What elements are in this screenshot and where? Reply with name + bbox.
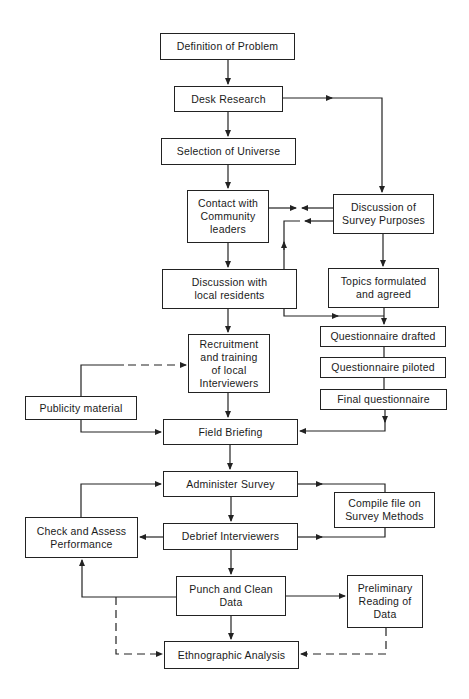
- edge-preliminary-ethnographic-dashed: [301, 628, 386, 654]
- edge-punch-check: [82, 560, 176, 597]
- node-selection-of-universe: Selection of Universe: [161, 138, 296, 165]
- node-questionnaire-piloted: Questionnaire piloted: [320, 357, 446, 378]
- node-final-questionnaire: Final questionnaire: [320, 389, 447, 410]
- edge-final-briefing-2: [300, 420, 385, 431]
- edge-administer-compile-2: [320, 484, 385, 492]
- edge-publicity-recruitment: [81, 365, 124, 396]
- node-definition-of-problem: Definition of Problem: [160, 33, 295, 60]
- node-check-assess-performance: Check and Assess Performance: [25, 517, 138, 558]
- edge-residents-drafted: [284, 309, 338, 316]
- node-compile-file: Compile file on Survey Methods: [334, 492, 435, 528]
- node-field-briefing: Field Briefing: [163, 419, 298, 445]
- edge-check-administer: [81, 484, 161, 517]
- node-recruitment-training: Recruitment and training of local Interv…: [188, 334, 270, 393]
- node-questionnaire-drafted: Questionnaire drafted: [320, 326, 446, 347]
- node-punch-clean-data: Punch and Clean Data: [176, 576, 286, 616]
- edge-residents-up: [284, 221, 300, 269]
- node-publicity-material: Publicity material: [25, 396, 137, 420]
- node-desk-research: Desk Research: [174, 86, 283, 112]
- node-preliminary-reading: Preliminary Reading of Data: [347, 575, 423, 628]
- edge-left-ethnographic-dashed: [116, 597, 162, 654]
- node-ethnographic-analysis: Ethnographic Analysis: [164, 641, 299, 669]
- node-discussion-local-residents: Discussion with local residents: [162, 269, 297, 309]
- edge-publicity-briefing: [81, 420, 161, 432]
- node-topics-formulated: Topics formulated and agreed: [328, 268, 439, 308]
- node-administer-survey: Administer Survey: [163, 471, 298, 497]
- edge-desk-purposes-2: [330, 98, 382, 192]
- edge-debrief-compile-2: [320, 528, 385, 537]
- node-contact-community-leaders: Contact with Community leaders: [187, 190, 269, 243]
- node-discussion-survey-purposes: Discussion of Survey Purposes: [333, 194, 434, 234]
- node-debrief-interviewers: Debrief Interviewers: [163, 523, 298, 550]
